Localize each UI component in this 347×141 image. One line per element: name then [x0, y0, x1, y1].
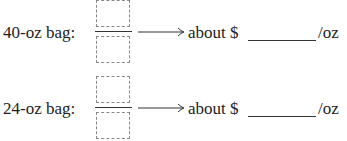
- bag-label: 24-oz bag:: [3, 100, 75, 117]
- price-prefix: about $: [188, 100, 239, 117]
- denominator-box[interactable]: [96, 112, 130, 139]
- numerator-box[interactable]: [96, 76, 130, 103]
- arrow-right-icon: [138, 103, 185, 113]
- unit-label: /oz: [318, 100, 339, 117]
- price-answer-blank[interactable]: [248, 116, 316, 117]
- row-24oz: 24-oz bag: about $ /oz: [0, 0, 347, 70]
- fraction-bar: [95, 107, 132, 108]
